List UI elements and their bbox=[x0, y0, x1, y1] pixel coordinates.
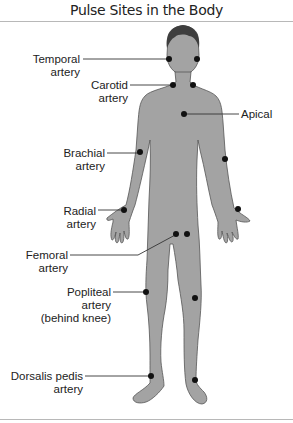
label-line: artery bbox=[50, 218, 96, 231]
pulse-dot-apical bbox=[181, 111, 187, 117]
torso-and-limbs bbox=[107, 72, 250, 404]
label-line: artery bbox=[5, 383, 83, 396]
label-line: artery bbox=[18, 66, 80, 79]
label-line: artery bbox=[80, 92, 128, 105]
label-line: (behind knee) bbox=[28, 312, 111, 325]
pulse-dot-popliteal-right bbox=[192, 295, 198, 301]
label-line: Popliteal bbox=[28, 286, 111, 299]
label-line: artery bbox=[28, 299, 111, 312]
pulse-dot-carotid-left bbox=[170, 82, 176, 88]
label-carotid-artery: Carotid artery bbox=[80, 79, 128, 105]
pulse-dot-femoral-right bbox=[184, 231, 190, 237]
label-popliteal-artery: Popliteal artery (behind knee) bbox=[28, 286, 111, 325]
label-dorsalis-pedis-artery: Dorsalis pedis artery bbox=[5, 370, 83, 396]
label-femoral-artery: Femoral artery bbox=[18, 249, 68, 275]
bottom-divider bbox=[0, 419, 293, 420]
label-line: artery bbox=[50, 160, 105, 173]
pulse-dot-temporal-left bbox=[166, 56, 172, 62]
pulse-dot-dorsalis-pedis-right bbox=[192, 377, 198, 383]
label-line: Apical bbox=[241, 108, 291, 121]
pulse-dot-brachial-left bbox=[137, 149, 143, 155]
pulse-dot-femoral-left bbox=[173, 231, 179, 237]
body-silhouette bbox=[107, 26, 250, 404]
pulse-dot-brachial-right bbox=[222, 156, 228, 162]
label-line: Temporal bbox=[18, 53, 80, 66]
label-line: Radial bbox=[50, 205, 96, 218]
label-line: artery bbox=[18, 262, 68, 275]
label-line: Dorsalis pedis bbox=[5, 370, 83, 383]
label-brachial-artery: Brachial artery bbox=[50, 147, 105, 173]
label-line: Carotid bbox=[80, 79, 128, 92]
label-temporal-artery: Temporal artery bbox=[18, 53, 80, 79]
label-line: Brachial bbox=[50, 147, 105, 160]
label-radial-artery: Radial artery bbox=[50, 205, 96, 231]
pulse-dot-radial-right bbox=[235, 206, 241, 212]
pulse-dot-popliteal-left bbox=[143, 289, 149, 295]
pulse-dot-temporal-right bbox=[194, 56, 200, 62]
pulse-dot-dorsalis-pedis-left bbox=[148, 373, 154, 379]
label-line: Femoral bbox=[18, 249, 68, 262]
pulse-dot-carotid-right bbox=[190, 82, 196, 88]
pulse-dot-radial-left bbox=[121, 207, 127, 213]
label-apical: Apical bbox=[241, 108, 291, 121]
